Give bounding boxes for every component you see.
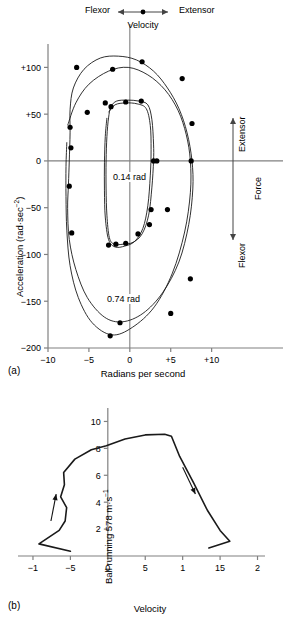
curve-label-exponent: −1 (102, 489, 109, 496)
data-point-marker (85, 110, 90, 115)
panel-b-x-tick-label: −1 (28, 563, 38, 573)
panel-b-x-tick-label: 2 (255, 563, 260, 573)
panel-a: +100+500−50−100−150−200−10−50+5+10 Flexo… (0, 0, 283, 390)
right-flexor-label: Flexor (237, 243, 247, 268)
panel-b-tag: (b) (8, 601, 20, 611)
top-velocity-label: Velocity (127, 20, 158, 30)
data-point-marker (189, 121, 194, 126)
data-point-marker (180, 76, 185, 81)
data-point-marker (108, 104, 113, 109)
data-point-marker (165, 207, 170, 212)
data-point-marker (139, 59, 144, 64)
x-axis-title: Radians per second (101, 369, 186, 379)
panel-a-plot: +100+500−50−100−150−200−10−50+5+10 (0, 0, 283, 390)
y-axis-title-exponent: −2 (13, 200, 20, 207)
panel-a-tag: (a) (8, 366, 20, 376)
data-point-marker (168, 311, 173, 316)
data-point-marker (188, 276, 193, 281)
direction-arrow (51, 494, 58, 521)
y-tick-label: +100 (21, 63, 41, 73)
data-point-marker (148, 207, 153, 212)
data-point-marker (106, 243, 111, 248)
right-force-label: Force (253, 177, 263, 200)
panel-b-x-tick-label: −5 (65, 563, 75, 573)
data-point-marker (110, 67, 115, 72)
panel-b-curve-label: Ball running 578 m·s−1 (101, 489, 114, 584)
figure-container: +100+500−50−100−150−200−10−50+5+10 Flexo… (0, 0, 283, 626)
y-tick-label: −150 (21, 297, 41, 307)
x-tick-label: 0 (127, 355, 132, 365)
x-tick-label: −5 (84, 355, 94, 365)
top-flexor-label: Flexor (85, 5, 110, 15)
data-point-marker (67, 125, 72, 130)
x-tick-label: +10 (204, 355, 219, 365)
data-point-marker (74, 65, 79, 70)
panel-b: 246810−1−5051152 Ball running 578 m·s−1 … (0, 388, 283, 626)
data-point-marker (108, 333, 113, 338)
data-point-marker (67, 184, 72, 189)
data-point-marker (113, 242, 118, 247)
panel-b-x-tick-label: 1 (180, 563, 185, 573)
y-tick-label: +50 (26, 110, 41, 120)
panel-b-x-tick-label: 5 (143, 563, 148, 573)
data-point-marker (135, 231, 140, 236)
panel-b-x-axis-title: Velocity (134, 604, 167, 614)
annotation-inner-loop: 0.14 rad (112, 172, 147, 182)
right-extensor-label: Extensor (237, 116, 247, 152)
panel-b-y-tick-label: 10 (91, 417, 101, 427)
data-point-marker (123, 99, 128, 104)
panel-b-x-tick-label: 15 (215, 563, 225, 573)
panel-b-y-tick-label: 6 (96, 471, 101, 481)
velocity-profile-curve (39, 434, 230, 551)
data-point-marker (147, 222, 152, 227)
y-tick-label: −200 (21, 343, 41, 353)
data-point-marker (69, 230, 74, 235)
top-extensor-label: Extensor (179, 5, 215, 15)
curve-label-text: Ball running 578 m·s (103, 497, 114, 584)
panel-b-plot: 246810−1−5051152 (0, 388, 283, 626)
annotation-outer-loop: 0.74 rad (106, 294, 141, 304)
direction-arrow (183, 467, 196, 494)
data-point-marker (189, 158, 194, 163)
data-point-marker (117, 320, 122, 325)
y-axis-title-text: Acceleration (rad·sec (14, 207, 25, 297)
velocity-axis-center-dot (141, 10, 146, 15)
data-point-marker (68, 145, 73, 150)
data-point-marker (103, 100, 108, 105)
y-axis-title: Acceleration (rad·sec−2) (12, 197, 25, 297)
data-point-marker (151, 158, 156, 163)
y-axis-title-paren: ) (14, 197, 25, 200)
y-tick-label: −50 (26, 203, 41, 213)
data-point-marker (123, 241, 128, 246)
data-point-marker (139, 98, 144, 103)
y-tick-label: 0 (36, 156, 41, 166)
x-tick-label: −10 (40, 355, 55, 365)
x-tick-label: +5 (166, 355, 176, 365)
